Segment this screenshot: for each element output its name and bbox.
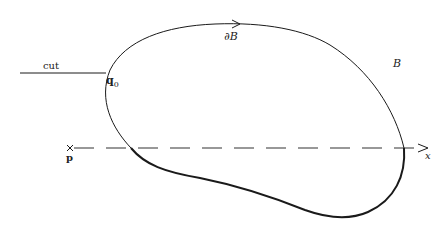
cut-label: cut bbox=[43, 60, 59, 71]
diagram-canvas: cut q0 ∂B B p x bbox=[0, 0, 445, 235]
boundary-curve-upper bbox=[106, 24, 404, 148]
boundary-label: ∂B bbox=[224, 30, 238, 43]
axis-x-label: x bbox=[425, 150, 431, 161]
region-label: B bbox=[392, 57, 401, 70]
boundary-curve-lower bbox=[131, 148, 404, 217]
point-q-subscript: 0 bbox=[114, 80, 119, 89]
point-p-cross-icon bbox=[67, 145, 73, 151]
point-q0-label: q0 bbox=[106, 74, 119, 89]
point-p-label: p bbox=[66, 152, 73, 163]
